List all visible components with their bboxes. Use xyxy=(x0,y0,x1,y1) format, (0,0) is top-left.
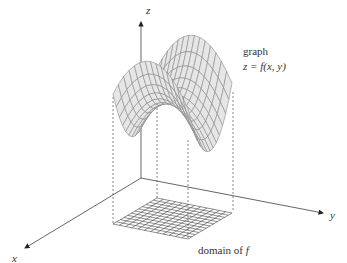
graph-label: graph xyxy=(243,45,268,57)
y-axis-label: y xyxy=(330,209,335,221)
y-axis xyxy=(141,178,323,213)
domain-label: domain of f xyxy=(198,244,249,256)
diagram-canvas xyxy=(0,0,347,263)
x-axis xyxy=(25,178,141,248)
x-axis-label: x xyxy=(12,252,17,263)
saddle-surface xyxy=(113,35,232,151)
domain-grid xyxy=(113,198,232,239)
graph-equation: z = f(x, y) xyxy=(243,60,286,72)
z-axis-label: z xyxy=(146,4,150,16)
